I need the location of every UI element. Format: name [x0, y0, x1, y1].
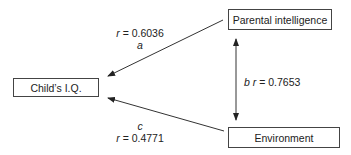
node-parental-intelligence-label: Parental intelligence — [233, 14, 328, 26]
node-child-iq-label: Child’s I.Q. — [30, 82, 81, 94]
edge-a-r-value: = 0.6036 — [123, 27, 164, 39]
node-environment: Environment — [228, 127, 340, 148]
edge-c-path-label: c — [137, 120, 142, 132]
edge-b-path-letter: b — [244, 76, 250, 88]
edge-c-correlation: r = 0.4771 — [116, 132, 164, 144]
edge-a-path-label: a — [137, 39, 143, 51]
node-parental-intelligence: Parental intelligence — [228, 9, 332, 30]
edge-c-r-value: = 0.4771 — [123, 132, 164, 144]
edge-a-path-letter: a — [137, 39, 143, 51]
arrow-c — [108, 98, 224, 131]
edge-c-r-var: r — [116, 132, 120, 144]
edge-b-correlation: b r = 0.7653 — [244, 76, 300, 88]
node-environment-label: Environment — [255, 132, 314, 144]
edge-a-correlation: r = 0.6036 — [116, 27, 164, 39]
edge-b-r-var: r — [253, 76, 257, 88]
edge-a-r-var: r — [116, 27, 120, 39]
edge-c-path-letter: c — [137, 120, 142, 132]
edge-b-r-value: = 0.7653 — [259, 76, 300, 88]
node-child-iq: Child’s I.Q. — [13, 78, 99, 97]
